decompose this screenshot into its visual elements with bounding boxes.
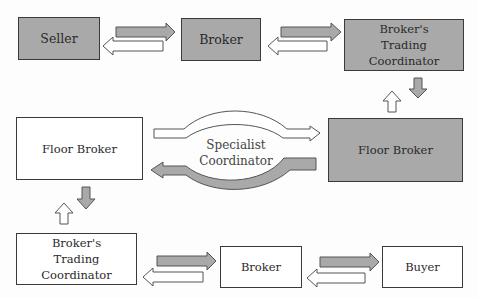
arrow-right-icon <box>157 252 216 270</box>
specialist-coordinator-label: Specialist Coordinator <box>196 137 276 169</box>
arrow-left-icon <box>103 37 163 55</box>
node-brokers-trading-coordinator-bottom: Broker's Trading Coordinator <box>16 233 137 285</box>
node-label: Broker <box>241 259 281 275</box>
node-label: Broker <box>199 32 243 48</box>
node-floor-broker-left: Floor Broker <box>16 117 143 180</box>
order-flow-diagram: Seller Broker Broker's Trading Coordinat… <box>0 0 477 298</box>
arrow-down-icon <box>409 78 427 98</box>
node-label: Broker's Trading Coordinator <box>345 21 463 69</box>
node-brokers-trading-coordinator-top: Broker's Trading Coordinator <box>344 19 464 71</box>
node-seller: Seller <box>18 17 100 60</box>
node-label: Floor Broker <box>358 142 433 158</box>
arrow-down-icon <box>77 187 95 209</box>
node-label: Buyer <box>405 259 440 275</box>
node-label: Seller <box>40 31 77 47</box>
node-floor-broker-right: Floor Broker <box>328 118 463 182</box>
arrow-up-icon <box>383 91 401 112</box>
arrow-left-icon <box>307 269 365 287</box>
arrow-right-icon <box>116 23 175 41</box>
node-label: Floor Broker <box>42 141 117 157</box>
node-broker-bottom: Broker <box>220 246 302 288</box>
arrow-left-icon <box>268 37 327 55</box>
arrow-right-icon <box>320 253 379 271</box>
node-buyer: Buyer <box>382 246 463 288</box>
node-broker-top: Broker <box>181 18 261 61</box>
arrow-up-icon <box>55 203 73 224</box>
arrow-right-icon <box>281 23 341 41</box>
node-label: Broker's Trading Coordinator <box>17 235 136 283</box>
arrow-left-icon <box>143 268 203 286</box>
